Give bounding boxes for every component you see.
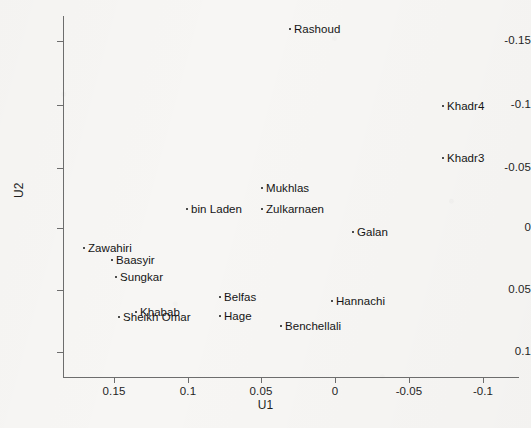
y-tick-mark: [57, 41, 63, 42]
y-tick-mark: [57, 290, 63, 291]
data-point: Rashoud: [289, 23, 340, 35]
data-point: Hage: [219, 310, 252, 322]
y-tick-mark: [57, 168, 63, 169]
data-point: Mukhlas: [261, 182, 309, 194]
data-point: Khadr4: [442, 100, 484, 112]
x-tick-label: 0.15: [84, 385, 144, 397]
data-point: Belfas: [219, 291, 256, 303]
x-tick-label: 0: [305, 385, 365, 397]
data-point: Benchellali: [280, 320, 341, 332]
x-tick-mark: [335, 377, 336, 383]
data-point-label: Mukhlas: [261, 182, 309, 194]
data-point-label: Galan: [352, 226, 388, 238]
y-tick-mark: [57, 228, 63, 229]
x-tick-label: 0.05: [231, 385, 291, 397]
data-point: Zulkarnaen: [261, 203, 324, 215]
y-tick-label: 0: [477, 221, 531, 233]
data-point-label: Hage: [219, 310, 252, 322]
x-tick-mark: [261, 377, 262, 383]
data-point-label: Belfas: [219, 291, 256, 303]
data-point-label: Khadr4: [442, 100, 484, 112]
x-tick-mark: [409, 377, 410, 383]
y-tick-label: -0.05: [477, 161, 531, 173]
y-tick-mark: [57, 352, 63, 353]
x-tick-mark: [483, 377, 484, 383]
x-tick-label: 0.1: [158, 385, 218, 397]
data-point-label: Sheikh Omar: [118, 311, 191, 323]
data-point: bin Laden: [186, 203, 242, 215]
data-point: Hannachi: [331, 295, 385, 307]
scatter-plot-figure: -0.15-0.1-0.0500.050.1 0.150.10.050-0.05…: [0, 0, 531, 428]
y-tick-label: -0.15: [477, 34, 531, 46]
x-tick-mark: [188, 377, 189, 383]
y-tick-label: -0.1: [477, 98, 531, 110]
data-point: Sungkar: [115, 271, 163, 283]
x-axis-title: U1: [0, 398, 531, 412]
data-point-label: bin Laden: [186, 203, 242, 215]
data-point-label: Zawahiri: [83, 242, 132, 254]
x-tick-label: -0.05: [379, 385, 439, 397]
data-point-label: Rashoud: [289, 23, 340, 35]
data-point-label: Baasyir: [111, 254, 155, 266]
data-point: Sheikh Omar: [118, 311, 191, 323]
y-axis-title: U2: [12, 183, 26, 198]
y-tick-label: 0.05: [477, 283, 531, 295]
y-tick-mark: [57, 105, 63, 106]
plot-area: -0.15-0.1-0.0500.050.1 0.150.10.050-0.05…: [0, 0, 531, 428]
x-tick-mark: [114, 377, 115, 383]
y-axis-line: [63, 16, 64, 377]
data-point: Zawahiri: [83, 242, 132, 254]
data-point-label: Zulkarnaen: [261, 203, 324, 215]
x-axis-line: [63, 377, 519, 378]
data-point-label: Benchellali: [280, 320, 341, 332]
data-point-label: Sungkar: [115, 271, 163, 283]
data-point: Galan: [352, 226, 388, 238]
y-tick-label: 0.1: [477, 345, 531, 357]
data-point: Khadr3: [442, 152, 484, 164]
data-point-label: Hannachi: [331, 295, 385, 307]
x-tick-label: -0.1: [453, 385, 513, 397]
data-point-label: Khadr3: [442, 152, 484, 164]
data-point: Baasyir: [111, 254, 155, 266]
